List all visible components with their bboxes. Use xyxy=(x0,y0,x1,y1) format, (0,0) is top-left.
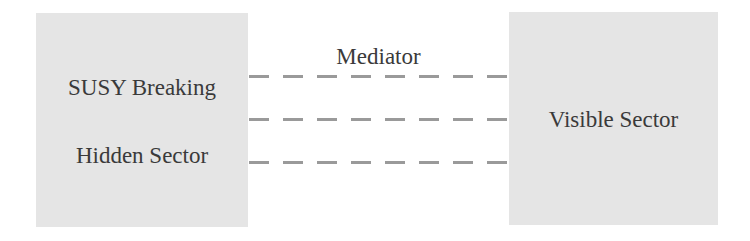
mediator-dashed-line-middle xyxy=(249,118,509,121)
mediator-dashed-line-top xyxy=(249,75,509,78)
mediator-label: Mediator xyxy=(248,44,509,70)
visible-sector-box: Visible Sector xyxy=(509,12,718,225)
mediator-dashed-line-bottom xyxy=(249,161,509,164)
susy-mediation-diagram: SUSY Breaking Hidden Sector Mediator Vis… xyxy=(0,0,750,241)
visible-sector-title: Visible Sector xyxy=(509,107,718,133)
hidden-sector-title-line-2: Hidden Sector xyxy=(36,143,248,169)
hidden-sector-title-line-1: SUSY Breaking xyxy=(36,75,248,101)
hidden-sector-box: SUSY Breaking Hidden Sector xyxy=(36,13,248,227)
